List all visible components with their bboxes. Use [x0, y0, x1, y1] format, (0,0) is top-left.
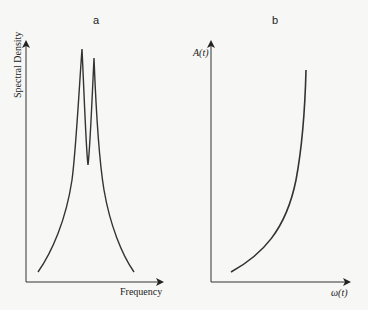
- panel-a-x-label: Frequency: [120, 286, 162, 297]
- panel-a-spectral-curve: [38, 49, 134, 272]
- figure: a Spectral Density Frequency b A(t) ω(t): [0, 0, 368, 310]
- panel-b-letter: b: [272, 14, 278, 26]
- panel-b-axes: [211, 42, 349, 282]
- plot-canvas: [0, 0, 368, 310]
- panel-b-curve: [231, 70, 306, 272]
- panel-a-letter: a: [93, 14, 99, 26]
- panel-b-y-label: A(t): [193, 47, 209, 58]
- panel-b-x-label: ω(t): [331, 287, 348, 298]
- panel-a-axes: [26, 42, 162, 282]
- panel-a-y-label: Spectral Density: [12, 32, 23, 98]
